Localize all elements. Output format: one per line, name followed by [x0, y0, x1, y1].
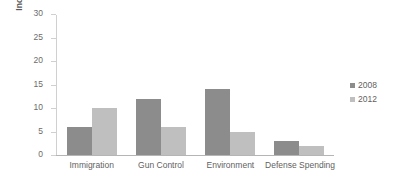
x-axis-category-labels: ImmigrationGun ControlEnvironmentDefense…: [57, 160, 335, 170]
bar-group: [196, 15, 265, 155]
y-tick-label: 30: [34, 8, 43, 18]
x-axis-label: Gun Control: [126, 160, 195, 170]
bar-groups: [57, 15, 334, 155]
y-tick: 20: [51, 61, 56, 62]
y-tick: 30: [51, 14, 56, 15]
bar-group: [57, 15, 126, 155]
chart-legend: 20082012: [350, 78, 377, 106]
bar-2012-defense-spending: [299, 146, 324, 155]
y-tick: 10: [51, 108, 56, 109]
y-axis-title: Income Gap (%): [13, 0, 25, 38]
y-tick-label: 10: [34, 102, 43, 112]
y-tick: 5: [51, 132, 56, 133]
legend-item-2008: 2008: [350, 78, 377, 92]
y-tick: 15: [51, 85, 56, 86]
bar-2008-immigration: [67, 127, 92, 155]
bar-2012-immigration: [92, 108, 117, 155]
legend-swatch-icon: [350, 97, 355, 102]
y-tick-label: 20: [34, 55, 43, 65]
x-axis-label: Immigration: [57, 160, 126, 170]
y-tick-label: 0: [38, 149, 43, 159]
y-tick-label: 25: [34, 32, 43, 42]
x-axis-line: [56, 155, 334, 156]
x-axis-label: Environment: [196, 160, 265, 170]
legend-item-2012: 2012: [350, 92, 377, 106]
bar-2012-gun-control: [161, 127, 186, 155]
bar-group: [265, 15, 334, 155]
legend-swatch-icon: [350, 83, 355, 88]
bar-group: [126, 15, 195, 155]
y-tick-label: 5: [38, 126, 43, 136]
bar-2008-defense-spending: [274, 141, 299, 155]
y-tick: 0: [51, 155, 56, 156]
bar-2008-environment: [205, 89, 230, 155]
bar-chart: Income Gap (%) 051015202530 ImmigrationG…: [0, 0, 394, 183]
bar-2008-gun-control: [136, 99, 161, 155]
legend-label: 2012: [358, 94, 377, 104]
legend-label: 2008: [358, 80, 377, 90]
y-tick-label: 15: [34, 79, 43, 89]
bar-2012-environment: [230, 132, 255, 156]
plot-area: 051015202530: [56, 15, 334, 156]
y-tick: 25: [51, 38, 56, 39]
x-axis-label: Defense Spending: [265, 160, 335, 170]
